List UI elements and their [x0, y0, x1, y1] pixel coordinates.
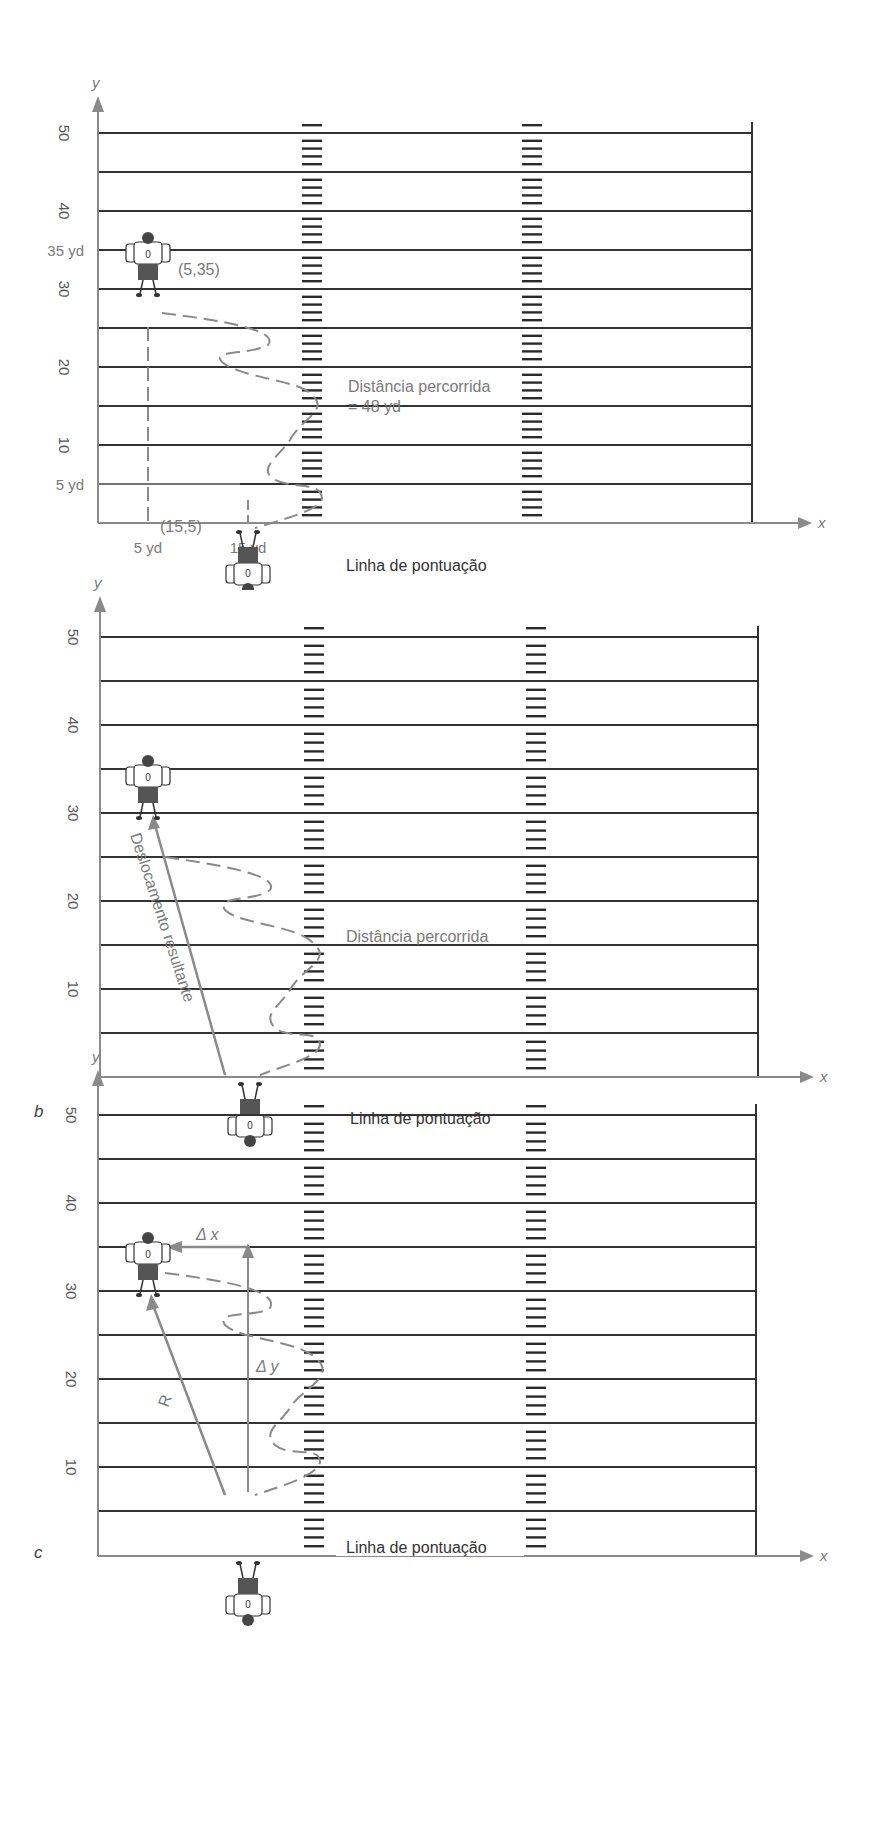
y-tick-10: 10 [63, 1459, 80, 1476]
y-axis-arrow-icon [94, 596, 106, 612]
y-tick-50: 50 [65, 629, 82, 646]
player-end-icon: 0 [126, 755, 170, 820]
player-start-icon: 0 [226, 1561, 270, 1626]
y-axis-label: y [91, 1048, 101, 1065]
svg-text:0: 0 [145, 1249, 151, 1260]
hash-marks-left [304, 628, 324, 1068]
y-tick-50: 50 [56, 125, 73, 142]
hash-marks-left [304, 1106, 324, 1546]
x-axis-label: x [819, 1547, 828, 1564]
y-axis-arrow-icon [92, 96, 104, 112]
panel-letter-c: c [34, 1543, 43, 1562]
distance-traveled-path [162, 313, 322, 528]
y-marker-5yd: 5 yd [56, 476, 84, 493]
y-axis-label: y [93, 574, 103, 591]
y-tick-30: 30 [63, 1283, 80, 1300]
svg-text:0: 0 [245, 1598, 251, 1609]
hash-marks-right [526, 628, 546, 1068]
y-tick-20: 20 [63, 1371, 80, 1388]
panel-c: x y 50 40 30 20 10 0 0 Δ x Δ y R Linha d… [0, 1040, 890, 1800]
y-tick-30: 30 [65, 805, 82, 822]
distance-label: Distância percorrida [346, 928, 488, 945]
y-axis-arrow-icon [92, 1070, 104, 1086]
field-diagram-c: x y 50 40 30 20 10 0 0 Δ x Δ y R Linha d… [0, 1040, 890, 1800]
y-tick-40: 40 [65, 717, 82, 734]
hash-marks-right [526, 1106, 546, 1546]
x-axis-arrow-icon [800, 1550, 814, 1562]
y-tick-20: 20 [65, 893, 82, 910]
y-tick-10: 10 [56, 437, 73, 454]
distance-label-line2: = 48 yd [348, 398, 401, 415]
y-tick-20: 20 [56, 359, 73, 376]
goal-line-label: Linha de pontuação [346, 1539, 487, 1556]
hash-marks-right [522, 125, 542, 515]
y-axis-label: y [91, 74, 101, 91]
delta-y-arrowhead-icon [242, 1243, 254, 1258]
yard-lines [98, 1115, 756, 1511]
y-tick-10: 10 [65, 981, 82, 998]
delta-x-label: Δ x [195, 1226, 220, 1243]
svg-text:0: 0 [145, 249, 151, 260]
player-end-icon: 0 [126, 1232, 170, 1297]
distance-traveled-path [165, 1273, 323, 1495]
yard-lines [100, 637, 758, 1033]
distance-label-line1: Distância percorrida [348, 378, 490, 395]
y-tick-50: 50 [63, 1107, 80, 1124]
delta-y-label: Δ y [255, 1358, 280, 1375]
player-end-icon: 0 [126, 232, 170, 297]
svg-text:0: 0 [145, 772, 151, 783]
end-point-label: (5,35) [178, 261, 220, 278]
resultant-label: R [155, 1392, 175, 1409]
y-tick-40: 40 [56, 203, 73, 220]
hash-marks-left [302, 125, 322, 515]
y-tick-30: 30 [56, 281, 73, 298]
y-marker-35yd: 35 yd [47, 242, 84, 259]
y-tick-40: 40 [63, 1195, 80, 1212]
yard-lines [98, 133, 752, 484]
